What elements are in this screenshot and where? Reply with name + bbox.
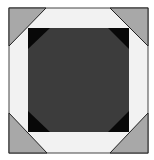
center-octagon [28, 28, 129, 132]
quilt-block [0, 0, 154, 160]
